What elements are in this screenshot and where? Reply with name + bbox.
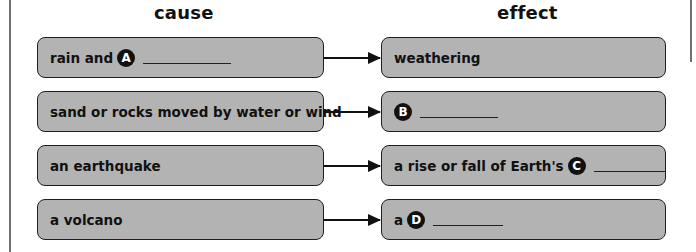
right-arrow-icon	[324, 165, 380, 167]
cause-text: a volcano	[50, 212, 123, 228]
column-header-effect: effect	[497, 2, 558, 23]
left-border-line	[9, 0, 11, 252]
column-header-cause: cause	[154, 2, 214, 23]
cause-box-2: sand or rocks moved by water or wind	[37, 91, 324, 132]
answer-blank-c[interactable]	[594, 159, 665, 172]
right-border-line	[690, 0, 692, 62]
marker-a-icon: A	[117, 49, 135, 67]
right-arrow-icon	[324, 57, 380, 59]
marker-b-icon: B	[394, 103, 412, 121]
effect-text: a rise or fall of Earth's	[394, 158, 564, 174]
answer-blank-a[interactable]	[143, 51, 231, 64]
answer-blank-b[interactable]	[420, 105, 498, 118]
effect-text: a	[394, 212, 403, 228]
cause-text: an earthquake	[50, 158, 161, 174]
effect-box-4: a D	[381, 199, 666, 240]
marker-d-icon: D	[407, 211, 425, 229]
effect-text: weathering	[394, 50, 481, 66]
right-arrow-icon	[324, 111, 380, 113]
marker-c-icon: C	[568, 157, 586, 175]
cause-text: rain and	[50, 50, 113, 66]
cause-text: sand or rocks moved by water or wind	[50, 104, 342, 120]
answer-blank-d[interactable]	[433, 213, 503, 226]
cause-box-4: a volcano	[37, 199, 324, 240]
cause-box-3: an earthquake	[37, 145, 324, 186]
right-arrow-icon	[324, 219, 380, 221]
effect-box-2: B	[381, 91, 666, 132]
effect-box-3: a rise or fall of Earth's C	[381, 145, 666, 186]
effect-box-1: weathering	[381, 37, 666, 78]
cause-box-1: rain and A	[37, 37, 324, 78]
